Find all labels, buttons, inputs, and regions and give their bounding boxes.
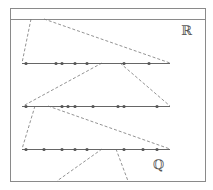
dashed-connector	[22, 19, 31, 63]
rationals-label: ℚ	[153, 158, 164, 171]
point-dot	[141, 148, 144, 151]
diagram-frame	[10, 9, 206, 182]
point-dot	[73, 62, 76, 65]
number-line	[22, 105, 170, 108]
point-dot	[147, 62, 150, 65]
point-dot	[122, 105, 125, 108]
point-dot	[122, 62, 125, 65]
frame-border	[11, 9, 206, 182]
point-dot	[24, 148, 27, 151]
point-dot	[24, 62, 27, 65]
dashed-connector	[57, 149, 102, 181]
number-line	[22, 62, 170, 65]
point-dot	[155, 148, 158, 151]
point-dot	[116, 105, 119, 108]
point-dot	[42, 148, 45, 151]
dashed-connectors	[22, 19, 170, 181]
point-dot	[60, 105, 63, 108]
point-dot	[60, 148, 63, 151]
dashed-connector	[120, 63, 170, 106]
dashed-connector	[22, 106, 35, 149]
point-dot	[66, 105, 69, 108]
point-dot	[122, 148, 125, 151]
dashed-connector	[116, 149, 128, 181]
point-dot	[85, 62, 88, 65]
point-dot	[73, 105, 76, 108]
point-dot	[73, 148, 76, 151]
number-lines	[22, 62, 170, 151]
point-dot	[60, 62, 63, 65]
reals-label: ℝ	[181, 24, 192, 37]
point-dot	[91, 105, 94, 108]
dashed-connector	[44, 19, 170, 63]
number-line	[22, 148, 170, 151]
point-dot	[155, 105, 158, 108]
dashed-connector	[48, 106, 170, 149]
dashed-connector	[23, 63, 102, 106]
point-dot	[24, 105, 27, 108]
point-dot	[54, 62, 57, 65]
point-dot	[85, 148, 88, 151]
